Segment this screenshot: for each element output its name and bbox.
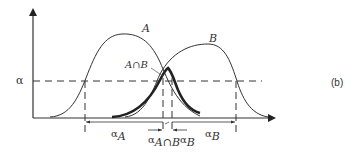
alpha-ab-arrowhead-right <box>173 129 177 132</box>
intersection-label: A∩B <box>124 59 148 70</box>
curve-a <box>50 34 200 117</box>
alpha-b-label: αB <box>205 128 220 143</box>
curve-b-label: B <box>208 32 217 45</box>
curve-intersection <box>112 68 200 117</box>
alpha-b-arrow-right <box>231 121 235 124</box>
alpha-ab-tick <box>165 122 169 124</box>
panel-label: (b) <box>331 77 343 88</box>
alpha-b-subscript-label: αB <box>180 134 195 149</box>
curve-a-label: A <box>141 22 150 35</box>
fuzzy-sets-diagram: A B A∩B α αA αA∩B αB αB (b) <box>0 0 358 154</box>
alpha-ab-arrowhead-left <box>158 129 162 132</box>
alpha-ab-label: αA∩B <box>148 134 180 149</box>
alpha-a-label: αA <box>111 128 126 143</box>
alpha-a-arrow-left <box>86 121 90 124</box>
alpha-axis-label: α <box>16 74 24 87</box>
